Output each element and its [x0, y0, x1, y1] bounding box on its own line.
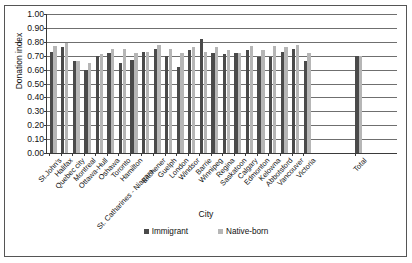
legend-label: Immigrant: [152, 227, 188, 236]
bar-immigrant[interactable]: [130, 60, 133, 153]
bar-group: [118, 14, 130, 153]
bar-native-born[interactable]: [123, 49, 126, 153]
bar-native-born[interactable]: [359, 56, 362, 153]
chart-figure: Donation index 1.000.900.800.700.600.500…: [0, 0, 412, 263]
bar-native-born[interactable]: [192, 47, 195, 153]
bar-native-born[interactable]: [204, 52, 207, 153]
bar-native-born[interactable]: [100, 54, 103, 153]
bar-group: [222, 14, 234, 153]
bar-native-born[interactable]: [157, 45, 160, 153]
bar-immigrant[interactable]: [154, 49, 157, 153]
bar-immigrant[interactable]: [119, 63, 122, 153]
y-axis-title: Donation index: [14, 6, 24, 116]
bar-native-born[interactable]: [307, 53, 310, 153]
bar-native-born[interactable]: [250, 46, 253, 153]
x-axis-tick-label: Total: [352, 156, 369, 174]
bar-immigrant[interactable]: [188, 50, 191, 153]
bar-native-born[interactable]: [227, 50, 230, 153]
bar-native-born[interactable]: [146, 52, 149, 153]
bar-group: [84, 14, 96, 153]
bar-group: [61, 14, 73, 153]
bar-group: [257, 14, 269, 153]
bar-immigrant[interactable]: [246, 50, 249, 153]
y-axis-tick-label: 1.00: [27, 9, 44, 19]
y-axis-tick-label: 0.00: [27, 148, 44, 158]
bar-group: [107, 14, 119, 153]
y-axis-tick-mark: [44, 153, 47, 154]
bar-native-born[interactable]: [76, 61, 79, 153]
bar-group: [234, 14, 246, 153]
bar-native-born[interactable]: [111, 49, 114, 153]
bar-group: [72, 14, 84, 153]
y-axis-tick-label: 0.80: [27, 37, 44, 47]
bar-immigrant[interactable]: [292, 49, 295, 153]
bar-native-born[interactable]: [215, 47, 218, 153]
bar-group: [165, 14, 177, 153]
y-axis-tick-label: 0.40: [27, 92, 44, 102]
legend-swatch: [144, 229, 149, 234]
bar-group: [199, 14, 211, 153]
bar-immigrant[interactable]: [200, 39, 203, 153]
bar-group: [95, 14, 107, 153]
bar-native-born[interactable]: [88, 63, 91, 153]
y-axis-tick-label: 0.90: [27, 23, 44, 33]
plot-area: 1.000.900.800.700.600.500.400.300.200.10…: [46, 14, 397, 154]
bar-native-born[interactable]: [261, 50, 264, 153]
legend-swatch: [218, 229, 223, 234]
bar-native-born[interactable]: [238, 53, 241, 153]
bar-native-born[interactable]: [180, 53, 183, 153]
bar-native-born[interactable]: [134, 53, 137, 153]
bar-group: [176, 14, 188, 153]
bar-series-container: [47, 14, 397, 153]
bar-native-born[interactable]: [296, 45, 299, 153]
bar-immigrant[interactable]: [234, 53, 237, 153]
bar-immigrant[interactable]: [142, 52, 145, 153]
y-axis-tick-label: 0.60: [27, 65, 44, 75]
bar-group: [268, 14, 280, 153]
bar-immigrant[interactable]: [177, 67, 180, 153]
bar-native-born[interactable]: [273, 46, 276, 153]
bar-immigrant[interactable]: [84, 70, 87, 153]
bar-immigrant[interactable]: [165, 56, 168, 153]
bar-immigrant[interactable]: [73, 61, 76, 153]
bar-immigrant[interactable]: [61, 47, 64, 153]
x-axis-title: City: [0, 209, 412, 219]
bar-immigrant[interactable]: [50, 52, 53, 153]
y-axis-tick-label: 0.30: [27, 106, 44, 116]
bar-native-born[interactable]: [169, 49, 172, 153]
bar-group: [188, 14, 200, 153]
bar-native-born[interactable]: [65, 43, 68, 153]
bar-group: [211, 14, 223, 153]
bar-native-born[interactable]: [53, 46, 56, 153]
bar-immigrant[interactable]: [355, 56, 358, 153]
bar-group: [355, 14, 367, 153]
bar-immigrant[interactable]: [304, 61, 307, 153]
bar-immigrant[interactable]: [211, 53, 214, 153]
bar-group: [141, 14, 153, 153]
chart-legend: ImmigrantNative-born: [0, 227, 412, 236]
bar-immigrant[interactable]: [223, 54, 226, 153]
bar-group: [245, 14, 257, 153]
bar-immigrant[interactable]: [107, 53, 110, 153]
bar-group: [49, 14, 61, 153]
bar-immigrant[interactable]: [269, 57, 272, 153]
bar-group: [153, 14, 165, 153]
y-axis-tick-label: 0.10: [27, 134, 44, 144]
legend-item[interactable]: Native-born: [218, 227, 268, 236]
bar-group: [303, 14, 315, 153]
x-axis-tick-labels: St.John'sHalifaxQuebec cityMontrealOttaw…: [46, 156, 397, 211]
bar-immigrant[interactable]: [257, 57, 260, 153]
legend-label: Native-born: [226, 227, 268, 236]
bar-group: [292, 14, 304, 153]
bar-group: [130, 14, 142, 153]
y-axis-tick-label: 0.20: [27, 120, 44, 130]
bar-immigrant[interactable]: [96, 56, 99, 153]
legend-item[interactable]: Immigrant: [144, 227, 188, 236]
bar-group: [280, 14, 292, 153]
y-axis-tick-label: 0.70: [27, 51, 44, 61]
bar-native-born[interactable]: [284, 47, 287, 153]
bar-immigrant[interactable]: [281, 52, 284, 153]
y-axis-tick-label: 0.50: [27, 79, 44, 89]
